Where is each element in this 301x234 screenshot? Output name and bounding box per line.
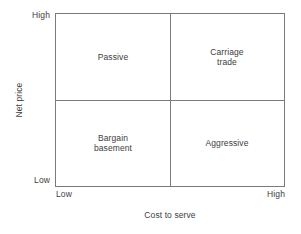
x-axis-title-text: Cost to serve: [144, 210, 195, 220]
quadrant-carriage-trade-label: Carriage trade: [210, 47, 243, 68]
y-axis-title-text: Net price: [14, 83, 24, 118]
x-axis-tick-high: High: [267, 189, 285, 199]
quadrant-aggressive-label: Aggressive: [205, 138, 248, 149]
quadrant-carriage-trade: Carriage trade: [170, 14, 284, 100]
quadrant-passive-label: Passive: [98, 52, 128, 63]
x-axis-tick-low: Low: [56, 189, 72, 199]
y-axis-title: Net price: [4, 13, 34, 187]
quadrant-aggressive: Aggressive: [170, 100, 284, 186]
x-axis-title: Cost to serve: [55, 210, 285, 220]
y-axis-tick-high: High: [32, 10, 50, 20]
quadrant-bargain-basement: Bargain basement: [56, 100, 170, 186]
quadrant-passive: Passive: [56, 14, 170, 100]
quadrant-bargain-basement-label: Bargain basement: [94, 133, 132, 154]
matrix-plot-frame: Passive Carriage trade Bargain basement …: [55, 13, 285, 187]
y-axis-tick-low: Low: [34, 175, 50, 185]
